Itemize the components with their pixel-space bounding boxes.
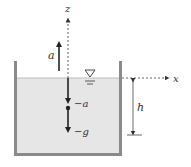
neg-a-label: −a — [74, 98, 88, 109]
tank-bottom — [14, 153, 122, 156]
tank-diagram: z a −a −g x h — [0, 0, 191, 167]
tank-left-wall — [14, 61, 17, 156]
height-label: h — [137, 101, 144, 114]
tank-right-wall — [119, 61, 122, 156]
x-axis-label: x — [173, 73, 179, 84]
neg-g-label: −g — [74, 126, 89, 137]
z-axis-label: z — [64, 3, 71, 14]
accel-up-label: a — [48, 49, 55, 62]
